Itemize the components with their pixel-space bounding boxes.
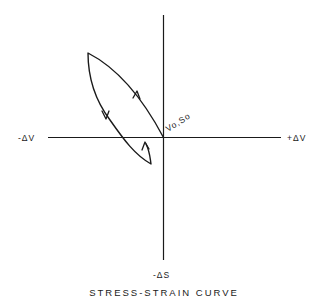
origin-label: Vo,So bbox=[164, 111, 193, 134]
stress-strain-diagram: -ΔV +ΔV -ΔS Vo,So STRESS-STRAIN CURVE bbox=[0, 0, 329, 302]
diagram-caption: STRESS-STRAIN CURVE bbox=[89, 287, 239, 298]
y-negative-label: -ΔS bbox=[153, 270, 170, 280]
stress-strain-loop bbox=[88, 53, 164, 164]
x-negative-label: -ΔV bbox=[18, 133, 35, 143]
x-positive-label: +ΔV bbox=[287, 133, 306, 143]
